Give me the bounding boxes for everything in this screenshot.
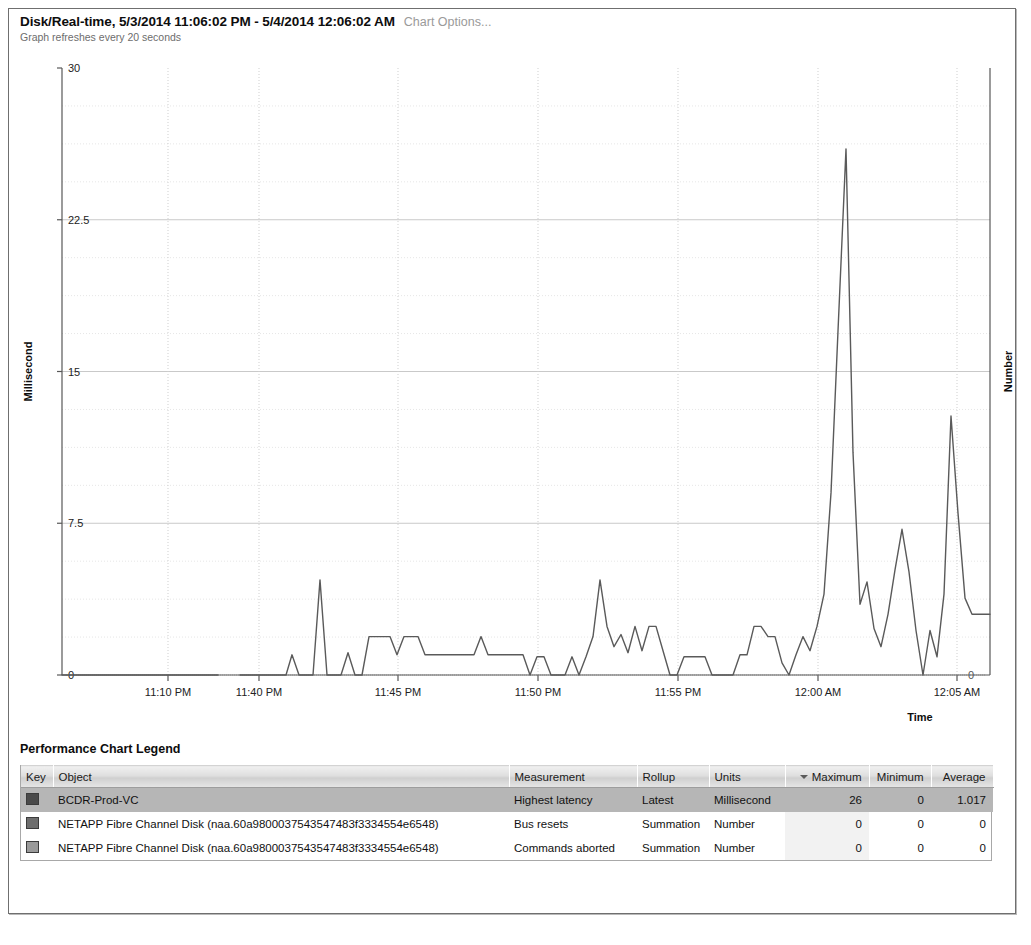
- x-axis-tick-label: 11:40 PM: [236, 686, 282, 698]
- legend-cell-minimum: 0: [869, 836, 931, 860]
- legend-col-rollup[interactable]: Rollup: [637, 766, 709, 788]
- legend-cell-object: NETAPP Fibre Channel Disk (naa.60a980003…: [53, 812, 509, 836]
- legend-cell-measurement: Bus resets: [509, 812, 637, 836]
- legend-cell-rollup: Summation: [637, 836, 709, 860]
- x-axis-title: Time: [907, 711, 932, 723]
- y-axis-tick-label: 22.5: [68, 214, 89, 226]
- series-line-highest-latency: [240, 149, 990, 675]
- y-axis-title: Millisecond: [22, 342, 34, 402]
- legend-col-key[interactable]: Key: [21, 766, 53, 788]
- legend-key-cell: [21, 836, 53, 860]
- legend-cell-measurement: Highest latency: [509, 788, 637, 813]
- x-axis-ticks: 11:10 PM11:40 PM11:45 PM11:50 PM11:55 PM…: [145, 675, 980, 698]
- legend-cell-average: 0: [931, 836, 993, 860]
- performance-chart-legend: Performance Chart Legend Key Object Meas…: [20, 742, 992, 861]
- legend-col-object[interactable]: Object: [53, 766, 509, 788]
- y-axis-tick-label: 30: [68, 62, 80, 74]
- legend-key-swatch: [26, 841, 39, 853]
- legend-col-maximum[interactable]: Maximum: [785, 766, 869, 788]
- x-axis-tick-label: 11:45 PM: [375, 686, 421, 698]
- legend-cell-maximum: 0: [785, 812, 869, 836]
- legend-key-swatch: [26, 793, 39, 805]
- chart-series-lines: [62, 149, 990, 675]
- legend-cell-units: Number: [709, 812, 785, 836]
- legend-row[interactable]: NETAPP Fibre Channel Disk (naa.60a980003…: [21, 836, 993, 860]
- legend-cell-average: 0: [931, 812, 993, 836]
- legend-cell-maximum: 0: [785, 836, 869, 860]
- legend-cell-maximum: 26: [785, 788, 869, 813]
- legend-col-units[interactable]: Units: [709, 766, 785, 788]
- legend-table: Key Object Measurement Rollup Units Maxi…: [21, 765, 994, 860]
- legend-body: BCDR-Prod-VCHighest latencyLatestMillise…: [21, 788, 993, 861]
- legend-key-cell: [21, 812, 53, 836]
- x-axis-tick-label: 11:10 PM: [145, 686, 191, 698]
- sort-descending-icon: [800, 775, 808, 779]
- legend-key-swatch: [26, 817, 39, 829]
- legend-col-average[interactable]: Average: [931, 766, 993, 788]
- legend-row[interactable]: BCDR-Prod-VCHighest latencyLatestMillise…: [21, 788, 993, 813]
- legend-cell-rollup: Latest: [637, 788, 709, 813]
- legend-cell-object: NETAPP Fibre Channel Disk (naa.60a980003…: [53, 836, 509, 860]
- legend-col-maximum-label: Maximum: [812, 771, 862, 783]
- axis-titles: MillisecondNumberTime: [22, 342, 1014, 723]
- legend-row[interactable]: NETAPP Fibre Channel Disk (naa.60a980003…: [21, 812, 993, 836]
- legend-header-row: Key Object Measurement Rollup Units Maxi…: [21, 766, 993, 788]
- y-axis-tick-label: 7.5: [68, 517, 83, 529]
- legend-cell-object: BCDR-Prod-VC: [53, 788, 509, 813]
- x-axis-tick-label: 11:50 PM: [515, 686, 561, 698]
- legend-cell-rollup: Summation: [637, 812, 709, 836]
- legend-cell-minimum: 0: [869, 788, 931, 813]
- y-axis-tick-label: 15: [68, 366, 80, 378]
- x-axis-tick-label: 12:00 AM: [795, 686, 841, 698]
- y2-axis-title: Number: [1002, 350, 1014, 392]
- legend-title: Performance Chart Legend: [20, 742, 992, 756]
- legend-table-wrapper: Key Object Measurement Rollup Units Maxi…: [20, 765, 992, 861]
- legend-col-minimum[interactable]: Minimum: [869, 766, 931, 788]
- legend-col-measurement[interactable]: Measurement: [509, 766, 637, 788]
- x-axis-tick-label: 11:55 PM: [655, 686, 701, 698]
- x-axis-tick-label: 12:05 AM: [934, 686, 980, 698]
- chart-plot-svg: 07.51522.5300 11:10 PM11:40 PM11:45 PM11…: [0, 0, 1031, 730]
- legend-cell-average: 1.017: [931, 788, 993, 813]
- legend-cell-units: Millisecond: [709, 788, 785, 813]
- legend-key-cell: [21, 788, 53, 813]
- performance-chart: 07.51522.5300 11:10 PM11:40 PM11:45 PM11…: [0, 0, 1008, 730]
- legend-cell-measurement: Commands aborted: [509, 836, 637, 860]
- legend-cell-units: Number: [709, 836, 785, 860]
- legend-cell-minimum: 0: [869, 812, 931, 836]
